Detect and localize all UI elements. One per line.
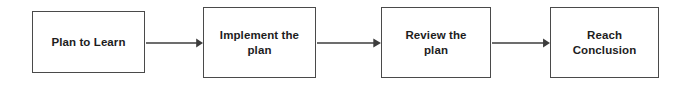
flow-node-plan-to-learn[interactable]: Plan to Learn [32, 11, 145, 73]
flow-node-label: Reach Conclusion [569, 28, 641, 57]
flow-connector-plan-to-implement [146, 37, 203, 49]
flow-connector-review-to-conclusion [492, 37, 550, 49]
arrow-right-icon [146, 37, 203, 49]
arrow-right-icon [317, 37, 381, 49]
flow-node-implement-the-plan[interactable]: Implement the plan [203, 7, 316, 78]
flow-node-reach-conclusion[interactable]: Reach Conclusion [550, 7, 659, 78]
flow-node-label: Review the plan [401, 28, 470, 57]
flow-connector-implement-to-review [317, 37, 381, 49]
flow-node-label: Plan to Learn [47, 35, 129, 49]
flowchart-diagram: Plan to Learn Implement the plan Review … [0, 0, 690, 87]
flow-node-review-the-plan[interactable]: Review the plan [381, 7, 491, 78]
arrow-right-icon [492, 37, 550, 49]
flow-node-label: Implement the plan [216, 28, 303, 57]
